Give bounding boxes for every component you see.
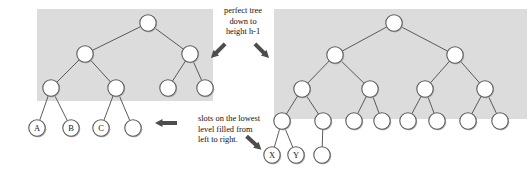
node-circle	[294, 81, 310, 97]
diagram-canvas: ABCXY perfect tree down to height h-1 sl…	[0, 0, 527, 176]
callout-perfect-tree: perfect tree down to height h-1	[206, 6, 280, 38]
node-label-c: C	[98, 123, 104, 133]
tree-node: A	[29, 120, 46, 138]
node-circle	[314, 147, 330, 163]
node-circle	[197, 80, 213, 96]
callout-lowest-level-slots: slots on the lowest level filled from le…	[198, 114, 294, 146]
tree-node: Y	[288, 147, 306, 165]
node-circle	[460, 113, 476, 129]
node-circle	[374, 113, 390, 129]
node-circle	[477, 81, 493, 97]
node-circle	[77, 46, 93, 62]
node-label-a: A	[34, 123, 41, 133]
tree-node	[315, 113, 333, 131]
node-circle	[362, 81, 378, 97]
arrow-left	[155, 119, 177, 127]
tree-node	[374, 113, 392, 131]
node-circle	[346, 113, 362, 129]
node-circle	[125, 120, 141, 136]
node-label-y: Y	[293, 150, 299, 160]
node-circle	[108, 80, 124, 96]
arrow-down-left	[211, 43, 227, 59]
tree-node	[346, 113, 364, 131]
node-circle	[492, 113, 508, 129]
node-circle	[400, 113, 416, 129]
tree-node: C	[93, 120, 111, 138]
tree-node	[314, 147, 332, 165]
tree-node	[400, 113, 418, 131]
node-circle	[447, 47, 463, 63]
node-circle	[386, 15, 402, 31]
node-circle	[140, 15, 156, 31]
node-circle	[327, 47, 343, 63]
node-circle	[429, 113, 445, 129]
tree-node	[125, 120, 143, 138]
tree-node: B	[63, 120, 80, 138]
tree-node	[429, 113, 447, 131]
arrow-down-right-top	[254, 43, 270, 59]
tree-node: X	[264, 147, 282, 165]
node-circle	[43, 80, 59, 96]
node-circle	[160, 80, 176, 96]
node-circle	[417, 81, 433, 97]
tree-node	[460, 113, 478, 131]
node-label-x: X	[269, 150, 275, 160]
tree-node	[492, 113, 510, 131]
node-label-b: B	[68, 123, 74, 133]
tree-edge	[322, 129, 323, 147]
node-circle	[315, 113, 331, 129]
node-circle	[182, 46, 198, 62]
